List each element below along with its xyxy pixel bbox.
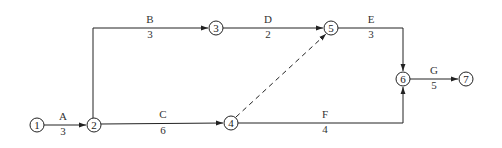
- label-g-duration: 5: [431, 79, 437, 91]
- node-4-label: 4: [228, 117, 234, 129]
- node-7-label: 7: [463, 73, 469, 85]
- label-b-name: B: [146, 13, 153, 25]
- node-5-label: 5: [328, 22, 334, 34]
- label-f-name: F: [322, 108, 328, 120]
- node-7: 7: [459, 72, 473, 86]
- node-4: 4: [224, 116, 238, 130]
- node-3: 3: [209, 21, 223, 35]
- node-5: 5: [324, 21, 338, 35]
- label-c-duration: 6: [160, 124, 166, 136]
- node-1-label: 1: [34, 119, 40, 131]
- edge-b: [93, 28, 208, 118]
- label-b-duration: 3: [147, 28, 153, 40]
- label-e-name: E: [368, 13, 375, 25]
- node-1: 1: [30, 118, 44, 132]
- label-a-duration: 3: [60, 125, 66, 137]
- label-d-duration: 2: [265, 28, 271, 40]
- label-f-duration: 4: [322, 123, 328, 135]
- label-e-duration: 3: [368, 28, 374, 40]
- label-g-name: G: [430, 64, 438, 76]
- node-6: 6: [396, 72, 410, 86]
- label-c-name: C: [159, 108, 166, 120]
- edge-dummy-4-5: [236, 34, 326, 117]
- node-3-label: 3: [213, 22, 219, 34]
- label-d-name: D: [264, 13, 272, 25]
- activity-labels: A 3 B 3 C 6 D 2 E 3 F 4 G 5: [59, 13, 438, 137]
- network-diagram: A 3 B 3 C 6 D 2 E 3 F 4 G 5 1 2 3 4 5 6: [0, 0, 502, 148]
- node-2: 2: [87, 118, 101, 132]
- label-a-name: A: [59, 110, 67, 122]
- node-6-label: 6: [400, 73, 406, 85]
- node-2-label: 2: [91, 119, 97, 131]
